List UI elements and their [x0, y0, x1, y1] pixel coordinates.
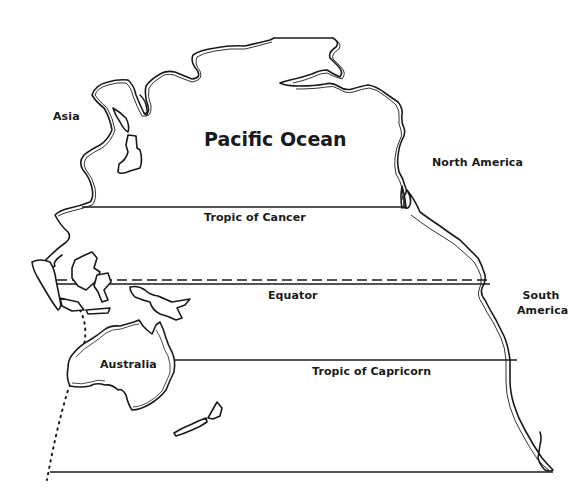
south-america-label-line1: South [517, 290, 565, 301]
north-america-label: North America [432, 157, 523, 168]
indonesia-islands [32, 252, 190, 320]
south-america-label: South America [517, 290, 565, 316]
western-boundary-dotted-curve [47, 310, 85, 480]
equator-label: Equator [268, 290, 318, 301]
asia-coastline [44, 38, 274, 267]
australia-label: Australia [100, 359, 157, 370]
pacific-ocean-map [0, 0, 588, 503]
pacific-ocean-label: Pacific Ocean [204, 130, 347, 149]
asia-label: Asia [53, 111, 80, 122]
tropic-of-capricorn-label: Tropic of Capricorn [312, 366, 431, 377]
north-america-coastline [280, 38, 553, 471]
south-america-label-line2: America [517, 305, 565, 316]
tropic-of-cancer-label: Tropic of Cancer [204, 212, 306, 223]
new-zealand [174, 402, 222, 436]
